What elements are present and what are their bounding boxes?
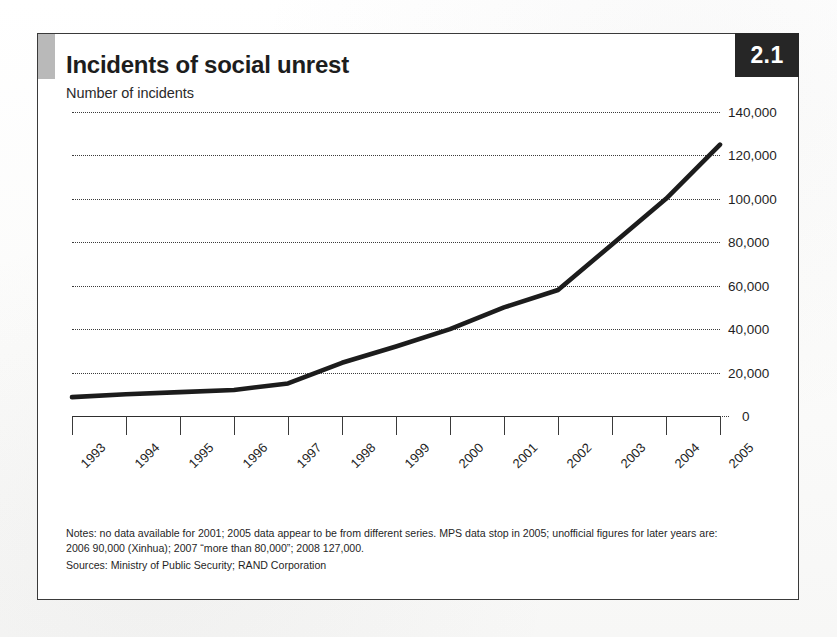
x-tick-1993 [72,416,73,435]
y-axis-label-60000: 60,000 [728,278,769,293]
notes-line-1: Notes: no data available for 2001; 2005 … [66,526,766,541]
notes-line-2: 2006 90,000 (Xinhua); 2007 “more than 80… [66,541,766,556]
figure-subtitle: Number of incidents [66,85,194,101]
y-axis-label-20000: 20,000 [728,365,769,380]
tab-accent-bar [38,34,55,79]
page-background: 2.1 Incidents of social unrest Number of… [0,0,837,637]
x-tick-2002 [558,416,559,435]
x-tick-1994 [126,416,127,435]
x-tick-1995 [180,416,181,435]
figure-number-badge: 2.1 [735,33,799,77]
figure-title: Incidents of social unrest [66,51,349,79]
x-tick-1997 [288,416,289,435]
x-axis-label-2005: 2005 [726,440,757,471]
x-tick-1998 [342,416,343,435]
y-axis-label-120000: 120,000 [728,148,777,163]
y-axis-label-40000: 40,000 [728,322,769,337]
x-tick-2004 [666,416,667,435]
y-tick-0 [720,416,729,417]
x-tick-2000 [450,416,451,435]
x-tick-2003 [612,416,613,435]
notes-sources: Sources: Ministry of Public Security; RA… [66,558,766,573]
y-axis-label-0: 0 [742,409,750,424]
x-tick-1996 [234,416,235,435]
x-tick-1999 [396,416,397,435]
chart-plot-area: 020,00040,00060,00080,000100,000120,0001… [72,112,720,453]
y-axis-label-100000: 100,000 [728,191,777,206]
series-line-incidents [72,145,720,398]
y-axis-label-140000: 140,000 [728,105,777,120]
figure-notes: Notes: no data available for 2001; 2005 … [66,526,766,573]
x-tick-2001 [504,416,505,435]
series-line-chart [72,112,720,453]
x-tick-2005 [720,416,721,435]
figure-frame: 2.1 Incidents of social unrest Number of… [37,33,799,600]
y-axis-label-80000: 80,000 [728,235,769,250]
